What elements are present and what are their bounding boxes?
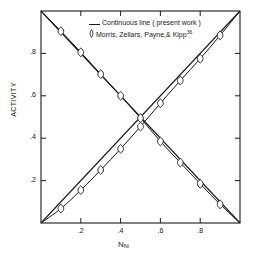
x-axis-label: NNi — [118, 240, 129, 249]
x-tick-label: .6 — [152, 227, 168, 234]
legend-lens-marker-icon — [88, 29, 95, 38]
y-tick-label: .2 — [20, 176, 36, 183]
x-tick-label: .4 — [113, 227, 129, 234]
x-tick-label: .2 — [73, 227, 89, 234]
legend-entry-morris-reference: Morris, Zellars, Payne,& Kipp36 — [96, 29, 192, 38]
y-tick-label: .8 — [20, 48, 36, 55]
y-axis-label: ACTIVITY — [10, 68, 17, 132]
y-tick-label: .6 — [20, 91, 36, 98]
legend-line-swatch — [89, 24, 100, 25]
legend-entry-morris-superscript: 36 — [187, 29, 193, 35]
x-axis-label-subscript: Ni — [124, 243, 129, 249]
y-tick-label: .4 — [20, 133, 36, 140]
legend-entry-morris-label: Morris, Zellars, Payne,& Kipp — [96, 31, 187, 38]
legend-entry-continuous-line: Continuous line ( present work ) — [102, 19, 201, 26]
activity-composition-chart: ACTIVITY NNi .2.4.6.8 .2.4.6.8 Continuou… — [0, 0, 262, 264]
x-tick-label: .8 — [192, 227, 208, 234]
plot-canvas — [0, 0, 262, 264]
